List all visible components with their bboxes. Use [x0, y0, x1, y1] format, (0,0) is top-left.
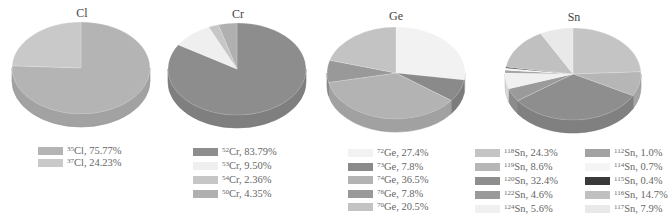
- legend-label: 114Sn, 0.7%: [614, 161, 662, 173]
- legend-label: 118Sn, 24.3%: [504, 147, 558, 159]
- legend-swatch: [585, 177, 610, 185]
- legend-swatch: [585, 163, 610, 171]
- legend-swatch: [475, 177, 500, 185]
- legend-label: 112Sn, 1.0%: [614, 147, 662, 159]
- legend-label: 117Sn, 7.9%: [614, 203, 662, 215]
- legend-swatch: [585, 205, 610, 213]
- legend-label: 120Sn, 32.4%: [504, 175, 558, 187]
- pie-slice-118sn: [573, 28, 641, 74]
- legend-label: 119Sn, 8.6%: [504, 161, 552, 173]
- legend-swatch: [585, 191, 610, 199]
- legend-label: 115Sn, 0.4%: [614, 175, 662, 187]
- legend-swatch: [475, 149, 500, 157]
- legend-label: 116Sn, 14.7%: [614, 189, 668, 201]
- legend-swatch: [585, 149, 610, 157]
- legend-label: 122Sn, 4.6%: [504, 189, 553, 201]
- legend-swatch: [475, 205, 500, 213]
- legend-swatch: [475, 191, 500, 199]
- legend-label: 124Sn, 5.6%: [504, 203, 553, 215]
- pie-chart: [0, 0, 670, 223]
- legend-swatch: [475, 163, 500, 171]
